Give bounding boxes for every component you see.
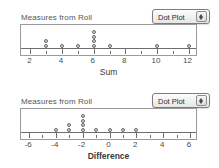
data-dot[interactable] (92, 39, 96, 43)
dot-plot-panel-2: Measures from Roll Dot Plot -6-4-20246 D… (0, 84, 219, 168)
x-axis-minor-tick (150, 135, 151, 138)
x-axis-tick-label: -4 (51, 140, 58, 150)
x-axis-tick-label: 8 (122, 56, 126, 66)
plot-area[interactable] (20, 24, 197, 56)
x-axis-minor-tick (110, 51, 111, 54)
x-axis-minor-tick (96, 135, 97, 138)
x-axis-major-tick (157, 49, 158, 54)
x-axis-tick-label: 10 (151, 56, 160, 66)
data-dot[interactable] (81, 128, 85, 132)
x-axis-major-tick (163, 133, 164, 138)
x-axis-tick-labels: 24681012 (20, 56, 197, 67)
panel-header: Measures from Roll Dot Plot (0, 84, 219, 110)
x-axis-tick-labels: -6-4-20246 (20, 140, 197, 151)
x-axis-minor-tick (177, 135, 178, 138)
x-axis-tick-label: 2 (133, 140, 137, 150)
dot-plot-panel-1: Measures from Roll Dot Plot 24681012 Sum (0, 0, 219, 84)
x-axis-tick-label: 4 (160, 140, 164, 150)
data-dot[interactable] (92, 30, 96, 34)
data-dot[interactable] (81, 123, 85, 127)
x-axis-major-tick (83, 133, 84, 138)
triangle-down-icon[interactable] (199, 101, 203, 104)
plot-type-dropdown-label: Dot Plot (158, 13, 185, 22)
x-axis-tick-label: 2 (27, 56, 31, 66)
x-axis-major-tick (62, 49, 63, 54)
x-axis-minor-tick (42, 135, 43, 138)
plot-type-stepper[interactable] (196, 95, 207, 106)
x-axis-title: Sum (20, 67, 197, 77)
plot-type-stepper[interactable] (196, 11, 207, 22)
x-axis-tick-label: -6 (24, 140, 31, 150)
x-axis-major-tick (56, 133, 57, 138)
x-axis-tick-label: -2 (78, 140, 85, 150)
x-axis-minor-tick (141, 51, 142, 54)
panel-header: Measures from Roll Dot Plot (0, 0, 219, 26)
data-dot[interactable] (187, 44, 191, 48)
panel-title: Measures from Roll (21, 13, 92, 22)
data-dot[interactable] (81, 114, 85, 118)
x-axis-tick-label: 6 (90, 56, 94, 66)
x-axis-minor-tick (69, 135, 70, 138)
x-axis-major-tick (30, 49, 31, 54)
plot-area[interactable] (20, 108, 197, 140)
data-dot[interactable] (81, 119, 85, 123)
x-axis-tick-label: 4 (59, 56, 63, 66)
data-dot[interactable] (92, 35, 96, 39)
x-axis-major-tick (110, 133, 111, 138)
x-axis-tick-label: 0 (106, 140, 110, 150)
x-axis-tick-label: 12 (183, 56, 192, 66)
panel-title: Measures from Roll (21, 97, 92, 106)
x-axis-minor-tick (123, 135, 124, 138)
data-dot[interactable] (155, 44, 159, 48)
data-dot[interactable] (121, 128, 125, 132)
x-axis-minor-tick (173, 51, 174, 54)
data-dot[interactable] (92, 44, 96, 48)
x-axis-minor-tick (78, 51, 79, 54)
data-dot[interactable] (76, 44, 80, 48)
data-dot[interactable] (44, 39, 48, 43)
x-axis-tick-label: 6 (187, 140, 191, 150)
data-dot[interactable] (54, 128, 58, 132)
data-dot[interactable] (67, 123, 71, 127)
x-axis-major-tick (136, 133, 137, 138)
x-axis-major-tick (189, 49, 190, 54)
x-axis-major-tick (29, 133, 30, 138)
data-dot[interactable] (108, 128, 112, 132)
plot-type-dropdown[interactable]: Dot Plot (152, 93, 210, 108)
x-axis-minor-tick (46, 51, 47, 54)
x-axis-title: Difference (20, 151, 197, 161)
x-axis-major-tick (125, 49, 126, 54)
measures-from-roll-view: Measures from Roll Dot Plot 24681012 Sum… (0, 0, 219, 168)
x-axis-line (21, 132, 196, 133)
x-axis-line (21, 48, 196, 49)
plot-type-dropdown[interactable]: Dot Plot (152, 9, 210, 24)
x-axis-major-tick (190, 133, 191, 138)
triangle-down-icon[interactable] (199, 17, 203, 20)
x-axis-major-tick (94, 49, 95, 54)
plot-type-dropdown-label: Dot Plot (158, 97, 185, 106)
data-dot[interactable] (108, 44, 112, 48)
